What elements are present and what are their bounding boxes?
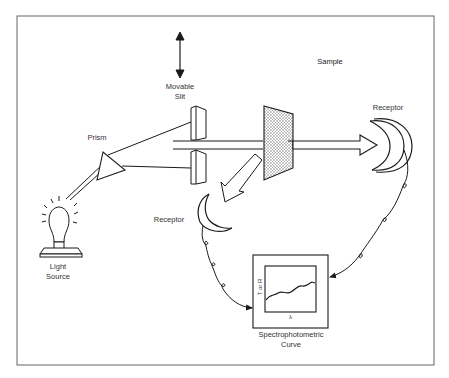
light-source-label-line1: Light	[46, 262, 70, 272]
movable-slit-label-line2: Slit	[166, 92, 194, 102]
movable-slit-label: Movable Slit	[166, 82, 194, 102]
double-arrow-icon	[176, 32, 184, 78]
dispersed-beams	[108, 122, 191, 168]
receptor-reflect-label: Receptor	[154, 215, 184, 225]
prism-label: Prism	[87, 133, 106, 143]
curve-label-line1: Spectrophotometric	[258, 330, 323, 340]
reflected-beam-arrow	[221, 154, 262, 202]
x-axis-label: λ	[289, 314, 292, 320]
prism	[97, 152, 125, 180]
movable-slit-label-line1: Movable	[166, 82, 194, 92]
light-source-label-line2: Source	[46, 272, 70, 282]
curve-label: Spectrophotometric Curve	[258, 330, 323, 350]
transmitted-beam-arrow	[293, 135, 377, 155]
receptor-transmit-label: Receptor	[373, 103, 403, 113]
light-source-label: Light Source	[46, 262, 70, 282]
light-beam-to-prism	[66, 163, 104, 200]
transmitted-beam	[173, 141, 263, 149]
light-bulb-icon	[40, 196, 82, 257]
cable-left	[202, 226, 252, 308]
curve-label-line2: Curve	[258, 340, 323, 350]
sample-slab	[264, 106, 293, 180]
spectrophotometer-diagram	[0, 0, 449, 378]
movable-slit	[191, 106, 206, 184]
cable-right	[330, 150, 408, 277]
y-axis-label: T or R	[257, 279, 263, 296]
sample-label: Sample	[317, 57, 342, 67]
